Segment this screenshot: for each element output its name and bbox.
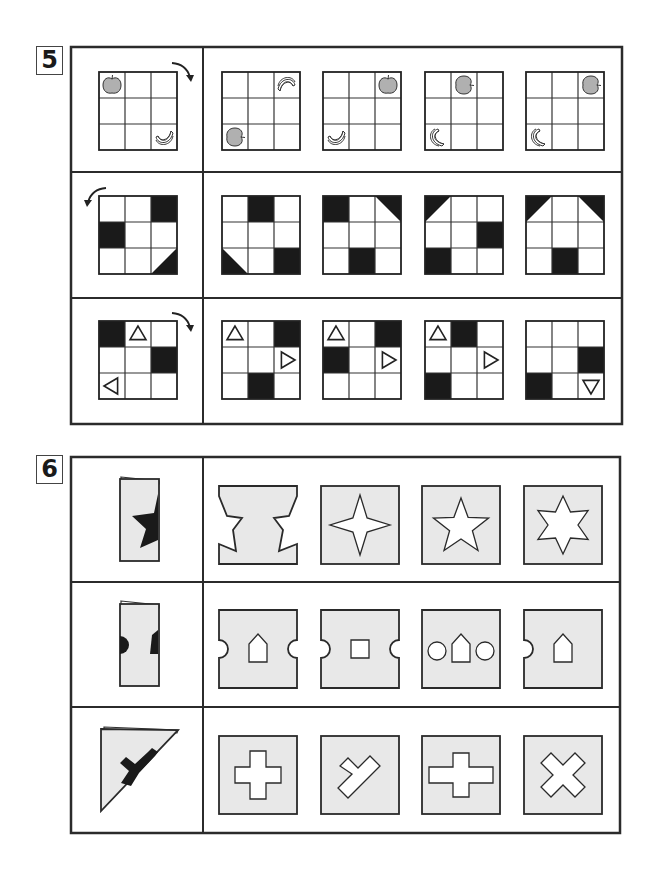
option-grid-2[interactable] xyxy=(323,321,401,399)
option-grid-3[interactable] xyxy=(425,321,503,399)
worksheet-canvas xyxy=(0,0,652,877)
option-left-notch-and-house[interactable] xyxy=(524,610,602,688)
option-four-point-star[interactable] xyxy=(321,486,399,564)
option-grid-2[interactable] xyxy=(323,72,401,150)
folded-triangle-t-question xyxy=(101,727,178,811)
option-notches-and-square[interactable] xyxy=(321,610,399,688)
option-grid-3[interactable] xyxy=(425,196,503,274)
question-grid-black-square-rotation[interactable] xyxy=(99,196,177,274)
option-hourglass-shape[interactable] xyxy=(219,486,297,564)
option-notches-and-house[interactable] xyxy=(219,610,297,688)
option-grid-1[interactable] xyxy=(222,196,300,274)
question-grid-triangle-rotation[interactable] xyxy=(99,321,177,399)
option-grid-1[interactable] xyxy=(222,72,300,150)
option-six-point-star[interactable] xyxy=(524,486,602,564)
option-circles-and-house[interactable] xyxy=(422,610,500,688)
folded-paper-semicircle-house-question xyxy=(120,601,159,686)
option-wide-plus-shape[interactable] xyxy=(422,736,500,814)
option-grid-1[interactable] xyxy=(222,321,300,399)
option-plus-shape[interactable] xyxy=(219,736,297,814)
option-grid-3[interactable] xyxy=(425,72,503,150)
option-grid-2[interactable] xyxy=(323,196,401,274)
option-grid-4[interactable] xyxy=(526,196,604,274)
question-grid-fruit-rotation[interactable] xyxy=(99,72,177,150)
option-five-point-star[interactable] xyxy=(422,486,500,564)
option-x-cross-shape[interactable] xyxy=(524,736,602,814)
folded-paper-star-question xyxy=(120,477,159,561)
option-grid-4[interactable] xyxy=(526,72,604,150)
option-grid-4[interactable] xyxy=(526,321,604,399)
option-diagonal-y-shape[interactable] xyxy=(321,736,399,814)
